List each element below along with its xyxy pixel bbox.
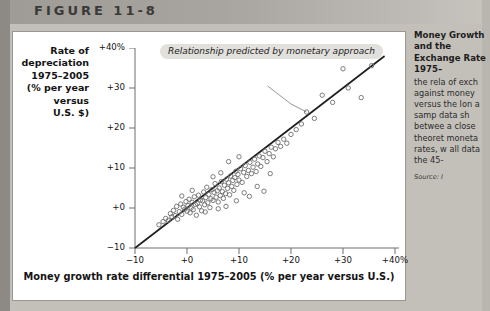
scatter-point [240, 180, 244, 184]
scatter-point [359, 95, 363, 99]
scatter-point [268, 171, 272, 175]
scatter-point [273, 147, 277, 151]
scatter-point [271, 155, 275, 159]
scatter-point [208, 205, 212, 209]
scatter-point [330, 100, 334, 104]
scatter-point [247, 194, 251, 198]
y-axis-title: Rate ofdepreciation1975–2005(% per yearv… [3, 45, 89, 119]
scatter-point [267, 151, 271, 155]
scatter-point [245, 174, 249, 178]
scatter-point [320, 93, 324, 97]
scatter-point [175, 217, 179, 221]
scatter-point [285, 141, 289, 145]
x-tick-label: −10 [121, 255, 149, 265]
caption-source: Source: I [414, 172, 490, 183]
scatter-point [171, 208, 175, 212]
annotation-leader-line [268, 86, 307, 112]
scatter-point [265, 159, 269, 163]
scatter-point [190, 188, 194, 192]
y-tick-label: +40% [85, 42, 125, 52]
scatter-point [299, 122, 303, 126]
scatter-point [236, 172, 240, 176]
scatter-point [207, 192, 211, 196]
scatter-point [174, 204, 178, 208]
y-tick-label: −10 [85, 242, 125, 252]
x-tick-label: +20 [277, 255, 305, 265]
y-tick-label: +30 [85, 82, 125, 92]
scatter-point [221, 196, 225, 200]
y-tick-label: +20 [85, 122, 125, 132]
figure-caption-column: Money Growth and the Exchange Rate 1975–… [414, 30, 490, 300]
x-tick-label: +40% [381, 255, 409, 265]
scatter-point [282, 137, 286, 141]
scatter-point [232, 188, 236, 192]
scatter-point [263, 149, 267, 153]
x-tick-label: +30 [329, 255, 357, 265]
scatter-point [242, 191, 246, 195]
scatter-point [251, 165, 255, 169]
scatter-point [234, 199, 238, 203]
caption-heading: Money Growth and the Exchange Rate 1975– [414, 30, 490, 76]
scatter-point [213, 181, 217, 185]
x-tick-label: +10 [225, 255, 253, 265]
plot-area: Relationship predicted by monetary appro… [123, 48, 399, 265]
scatter-point [235, 182, 239, 186]
scatter-point [278, 144, 282, 148]
figure-number-label: FIGURE 11-8 [34, 3, 158, 18]
scatter-point [241, 170, 245, 174]
scatter-point [196, 193, 200, 197]
scatter-point [341, 67, 345, 71]
scatter-point [346, 86, 350, 90]
scatter-point [255, 184, 259, 188]
scatter-point [262, 189, 266, 193]
y-tick-label: +0 [85, 202, 125, 212]
y-tick-label: +10 [85, 162, 125, 172]
scatter-point [237, 155, 241, 159]
scatter-point [194, 213, 198, 217]
x-axis-title: Money growth rate differential 1975–2005… [13, 271, 405, 282]
chart-panel: Rate ofdepreciation1975–2005(% per yearv… [12, 31, 406, 301]
scatter-point [219, 171, 223, 175]
scatter-point [180, 194, 184, 198]
scatter-point [254, 169, 258, 173]
scatter-point [276, 140, 280, 144]
x-tick-label: +0 [173, 255, 201, 265]
scatter-point [225, 186, 229, 190]
scatter-point [216, 200, 220, 204]
scatter-points [157, 63, 374, 227]
scatter-point [259, 164, 263, 168]
scatter-plot-svg [123, 48, 399, 265]
scatter-point [224, 204, 228, 208]
scatter-point [216, 207, 220, 211]
figure-header-band: FIGURE 11-8 [10, 0, 482, 24]
caption-body: the rela of exch against money versus th… [414, 77, 490, 167]
scatter-point [211, 175, 215, 179]
scatter-point [227, 193, 231, 197]
scatter-point [226, 159, 230, 163]
scatter-point [252, 157, 256, 161]
scatter-point [289, 132, 293, 136]
scatter-point [294, 127, 298, 131]
scatter-point [157, 223, 161, 227]
scatter-point [205, 185, 209, 189]
scatter-point [312, 116, 316, 120]
scatter-point [249, 171, 253, 175]
annotation-callout: Relationship predicted by monetary appro… [160, 44, 383, 59]
scatter-point [248, 160, 252, 164]
scatter-point [201, 190, 205, 194]
